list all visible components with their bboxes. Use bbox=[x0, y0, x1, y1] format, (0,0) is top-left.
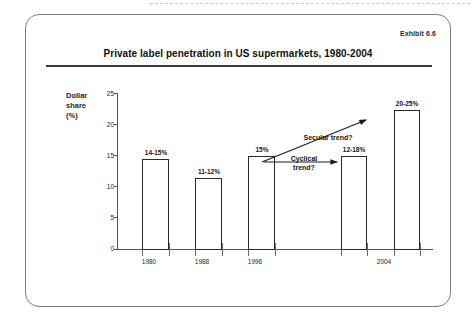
y-tick-label-15: 15 bbox=[98, 152, 114, 159]
bar-label-2004: 20-25% bbox=[381, 100, 433, 107]
x-tick-mark-4 bbox=[222, 243, 223, 256]
bar-chart: Dollar share (%) 25 20 15 10 5 0 1980 19… bbox=[26, 15, 452, 308]
x-tick-mark-8 bbox=[367, 243, 368, 256]
bar-1996 bbox=[248, 156, 275, 250]
bar-label-projection: 12-18% bbox=[328, 146, 380, 153]
y-tick-mark-20 bbox=[114, 124, 117, 125]
y-tick-mark-10 bbox=[114, 186, 117, 187]
x-tick-mark-2 bbox=[169, 243, 170, 256]
bar-label-1980: 14-15% bbox=[130, 149, 182, 156]
slide-card: Exhibit 6.6 Private label penetration in… bbox=[25, 14, 451, 307]
cyclical-trend-annotation: Cyclical trend? bbox=[276, 155, 332, 172]
cyclical-trend-line-2: trend? bbox=[293, 164, 315, 171]
x-tick-mark-6 bbox=[275, 243, 276, 256]
x-tick-label-1996: 1996 bbox=[232, 258, 278, 265]
bar-label-1988: 11-12% bbox=[183, 168, 235, 175]
y-axis-title-line-3: (%) bbox=[66, 111, 118, 121]
y-tick-mark-5 bbox=[114, 217, 117, 218]
cyclical-trend-line-1: Cyclical bbox=[291, 155, 317, 162]
bar-1988 bbox=[195, 178, 222, 250]
y-tick-label-5: 5 bbox=[98, 214, 114, 221]
y-tick-label-0: 0 bbox=[98, 245, 114, 252]
y-axis-title-line-2: share bbox=[66, 101, 118, 111]
y-tick-label-10: 10 bbox=[98, 183, 114, 190]
bar-1980 bbox=[142, 159, 169, 250]
x-tick-label-2004: 2004 bbox=[361, 258, 407, 265]
x-tick-label-1988: 1988 bbox=[179, 258, 225, 265]
y-tick-mark-25 bbox=[114, 93, 117, 94]
top-dashed-rule bbox=[150, 3, 470, 4]
bar-label-1996: 15% bbox=[236, 146, 288, 153]
bar-2004 bbox=[394, 110, 420, 250]
bar-projection-12-18 bbox=[341, 156, 367, 250]
y-tick-mark-15 bbox=[114, 155, 117, 156]
y-tick-label-20: 20 bbox=[98, 121, 114, 128]
y-tick-label-25: 25 bbox=[98, 90, 114, 97]
x-tick-label-1980: 1980 bbox=[126, 258, 172, 265]
secular-trend-annotation: Secular trend? bbox=[285, 134, 371, 143]
y-axis-line bbox=[117, 93, 118, 250]
x-tick-mark-10 bbox=[420, 243, 421, 256]
